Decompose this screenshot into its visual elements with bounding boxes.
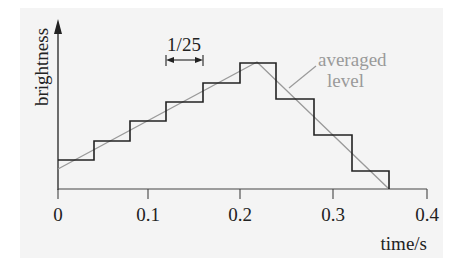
y-axis bbox=[54, 19, 62, 190]
x-tick-labels: 0 0.1 0.2 0.3 0.4 bbox=[53, 204, 439, 225]
arrow-right-icon bbox=[195, 57, 203, 63]
x-axis-label: time/s bbox=[381, 233, 427, 254]
arrow-left-icon bbox=[166, 57, 174, 63]
chart-svg: 0 0.1 0.2 0.3 0.4 time/s brightness 1/25… bbox=[0, 0, 466, 276]
averaged-label-line1: averaged bbox=[318, 49, 387, 70]
x-tick-0.2: 0.2 bbox=[228, 204, 252, 225]
interval-dimension: 1/25 bbox=[166, 34, 203, 66]
y-axis-arrow-icon bbox=[54, 19, 62, 34]
x-tick-0.4: 0.4 bbox=[415, 204, 439, 225]
x-tick-0.1: 0.1 bbox=[136, 204, 160, 225]
y-axis-label: brightness bbox=[31, 28, 52, 106]
x-tick-0: 0 bbox=[53, 204, 63, 225]
interval-label: 1/25 bbox=[167, 34, 201, 55]
averaged-level-leader bbox=[289, 66, 316, 88]
x-tick-0.3: 0.3 bbox=[321, 204, 345, 225]
x-axis bbox=[58, 189, 427, 199]
averaged-label-line2: level bbox=[327, 70, 364, 91]
